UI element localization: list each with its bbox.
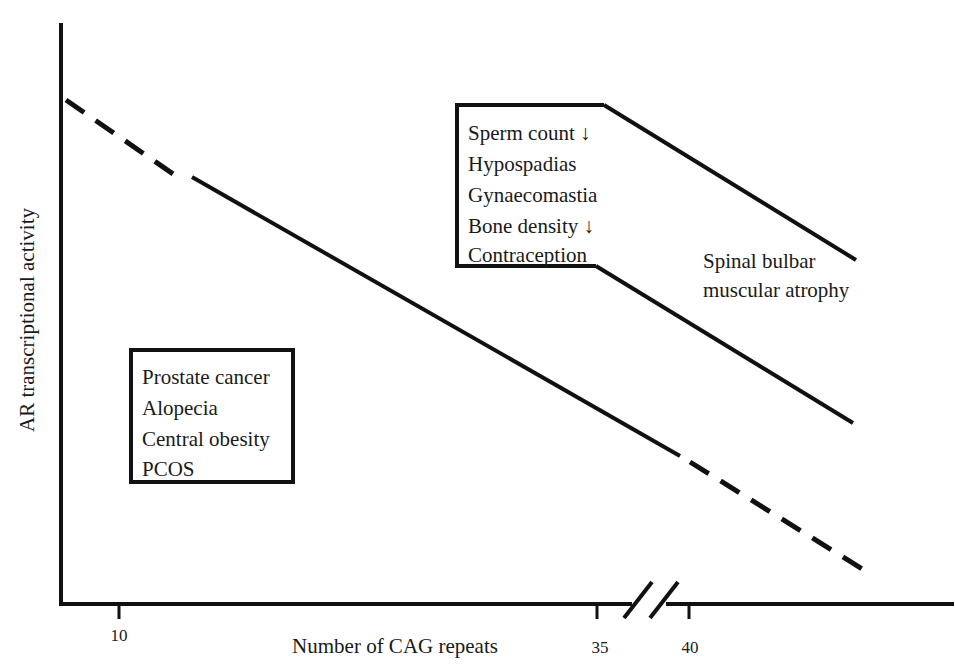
high-box-line-5: Contraception <box>468 243 587 267</box>
x-axis-ticks <box>119 604 689 619</box>
low-box-line-4: PCOS <box>142 457 195 481</box>
y-axis-title: AR transcriptional activity <box>15 208 39 432</box>
low-box-line-2: Alopecia <box>142 396 218 420</box>
high-box-line-1: Sperm count ↓ <box>468 121 590 145</box>
high-box-line-4: Bone density ↓ <box>468 214 594 238</box>
x-axis-title: Number of CAG repeats <box>292 634 498 658</box>
figure-container: Sperm count ↓ Hypospadias Gynaecomastia … <box>0 0 955 668</box>
sbma-annotation-label: Spinal bulbar muscular atrophy <box>703 249 850 302</box>
sbma-label-line-2: muscular atrophy <box>703 278 850 302</box>
tick-label-40: 40 <box>682 638 699 657</box>
low-box-line-3: Central obesity <box>142 427 270 451</box>
x-axis-break-icon <box>624 582 678 618</box>
trend-line-dashed-tail <box>690 462 864 570</box>
high-box-line-2: Hypospadias <box>468 152 577 176</box>
low-box-line-1: Prostate cancer <box>142 365 270 389</box>
tick-label-10: 10 <box>111 626 128 645</box>
trend-line-dashed-head <box>66 100 176 176</box>
sbma-label-line-1: Spinal bulbar <box>703 249 816 273</box>
ar-activity-cag-repeats-chart: Sperm count ↓ Hypospadias Gynaecomastia … <box>0 0 955 668</box>
tick-label-35: 35 <box>592 638 609 657</box>
high-repeat-box-text: Sperm count ↓ Hypospadias Gynaecomastia … <box>468 121 598 267</box>
sbma-upper-branch-line <box>604 105 856 260</box>
high-box-line-3: Gynaecomastia <box>468 183 598 207</box>
